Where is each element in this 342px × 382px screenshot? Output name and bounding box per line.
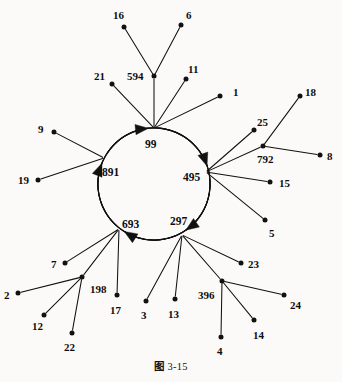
graph-svg [0,0,342,382]
edge-19-to-891 [41,158,103,179]
edge-line [265,98,299,144]
node-label-3: 3 [141,310,147,321]
node-label-25: 25 [257,117,268,128]
node-dot-16[interactable] [122,25,127,30]
edge-line [225,282,282,295]
node-dot-2[interactable] [16,291,21,296]
node-label-17: 17 [110,305,121,316]
node-dot-11[interactable] [184,77,189,82]
edge-line [221,284,222,334]
node-dot-6[interactable] [179,23,184,28]
node-label-693: 693 [122,219,139,231]
node-dot-792[interactable] [261,144,266,149]
caption-prefix: 图 [154,361,164,372]
edge-7-to-693 [68,230,118,262]
edge-792-to-495 [207,147,260,171]
node-label-7: 7 [51,259,57,270]
figure-caption: 图 3-15 [0,358,342,373]
edge-line [114,86,153,127]
node-dot-18[interactable] [298,94,303,99]
node-dot-13[interactable] [173,297,178,302]
edge-line [155,28,179,74]
node-label-15: 15 [279,178,290,189]
node-dot-25[interactable] [252,128,257,133]
node-label-14: 14 [253,330,264,341]
edge-2-to-198 [21,278,80,293]
node-label-1: 1 [233,87,239,98]
edge-6-to-594 [155,28,179,74]
node-label-24: 24 [290,300,301,311]
node-label-18: 18 [305,87,316,98]
node-dot-3[interactable] [144,299,149,304]
node-dot-12[interactable] [42,313,47,318]
node-label-11: 11 [188,64,198,75]
edge-9-to-891 [57,133,103,157]
node-dot-594[interactable] [152,74,157,79]
edge-line [183,236,238,262]
node-label-9: 9 [38,124,44,135]
node-dot-198[interactable] [80,275,85,280]
node-label-21: 21 [94,71,105,82]
node-dot-23[interactable] [239,261,244,266]
node-dot-5[interactable] [263,218,268,223]
edge-line [84,230,118,274]
edge-21-to-99 [114,86,153,127]
edge-line [21,278,80,293]
edge-16-to-594 [126,30,153,74]
node-label-891: 891 [102,167,119,179]
edge-24-to-396 [225,282,282,295]
node-label-22: 22 [64,342,75,353]
node-label-8: 8 [327,151,333,162]
node-label-495: 495 [183,172,200,184]
edge-line [46,279,80,313]
edge-line [73,280,82,330]
edge-line [68,230,118,262]
node-label-297: 297 [170,216,187,228]
caption-number: 3-15 [167,361,187,372]
edge-4-to-396 [221,284,222,334]
node-dot-17[interactable] [115,293,120,298]
edge-line [126,30,153,74]
edge-25-to-495 [207,132,252,171]
node-dot-9[interactable] [52,130,57,135]
edge-198-to-693 [84,230,118,274]
cycle-arrowhead-into-495 [198,152,208,166]
node-label-2: 2 [4,290,10,301]
node-label-594: 594 [127,71,144,82]
edge-18-to-792 [265,98,299,144]
node-dot-1[interactable] [218,94,223,99]
node-dot-22[interactable] [70,331,75,336]
node-label-23: 23 [248,259,259,270]
node-dot-14[interactable] [252,318,257,323]
node-dot-15[interactable] [268,180,273,185]
edge-line [57,133,103,157]
node-dot-24[interactable] [282,293,287,298]
node-dot-7[interactable] [63,261,68,266]
tree-edge-layer [21,28,317,334]
node-label-792: 792 [257,154,274,165]
node-dot-4[interactable] [219,335,224,340]
figure-canvas: 9989149569329759479219839616621111919251… [0,0,342,382]
node-label-13: 13 [168,309,179,320]
edge-line [117,231,119,293]
node-label-16: 16 [113,10,124,21]
cycle-arrowhead-into-99 [135,124,148,134]
node-label-19: 19 [18,175,29,186]
node-label-198: 198 [90,284,107,295]
node-dot-21[interactable] [110,82,115,87]
edge-line [207,147,260,171]
node-dot-19[interactable] [36,178,41,183]
edge-14-to-396 [224,283,252,318]
edge-12-to-198 [46,279,80,313]
node-dot-396[interactable] [220,279,225,284]
node-dot-layer [16,23,323,340]
edge-line [224,283,252,318]
edge-23-to-297 [183,236,238,262]
node-label-396: 396 [198,290,215,301]
edge-396-to-297 [183,236,220,279]
node-label-5: 5 [269,228,275,239]
edge-line [207,132,252,171]
node-label-4: 4 [217,346,223,357]
node-label-6: 6 [186,10,192,21]
node-dot-8[interactable] [318,153,323,158]
